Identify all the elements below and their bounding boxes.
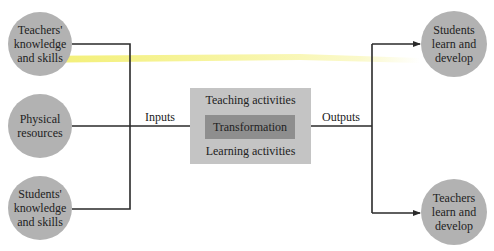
input-node-students-knowledge: Students' knowledge and skills — [8, 176, 72, 240]
process-box: Teaching activities Transformation Learn… — [190, 88, 311, 164]
inputs-label: Inputs — [145, 110, 175, 125]
transformation-box: Transformation — [205, 115, 295, 139]
node-label: Teachers learn and develop — [432, 191, 476, 233]
node-label: Physical resources — [17, 112, 62, 140]
input-node-physical-resources: Physical resources — [8, 94, 72, 158]
learning-activities-label: Learning activities — [190, 144, 311, 159]
input-process-output-diagram: Teachers' knowledge and skills Physical … — [0, 0, 494, 251]
transformation-label: Transformation — [213, 120, 287, 135]
output-node-teachers-develop: Teachers learn and develop — [421, 179, 487, 245]
highlighter-mark — [20, 54, 420, 63]
outputs-label: Outputs — [322, 110, 360, 125]
output-node-students-develop: Students learn and develop — [421, 11, 487, 77]
node-label: Students learn and develop — [432, 23, 476, 65]
node-label: Students' knowledge and skills — [14, 187, 67, 229]
node-label: Teachers' knowledge and skills — [14, 23, 67, 65]
input-node-teachers-knowledge: Teachers' knowledge and skills — [8, 12, 72, 76]
teaching-activities-label: Teaching activities — [190, 93, 311, 108]
